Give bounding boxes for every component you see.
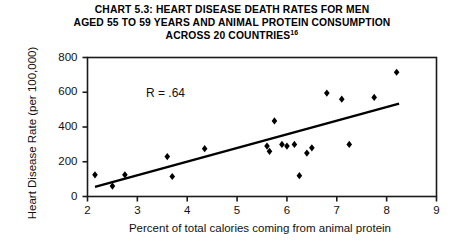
chart-figure: CHART 5.3: HEART DISEASE DEATH RATES FOR… — [0, 0, 464, 246]
x-tick-label: 6 — [277, 204, 297, 216]
y-tick-label: 400 — [44, 120, 78, 132]
x-tick-label: 2 — [78, 204, 98, 216]
x-tick-label: 7 — [327, 204, 347, 216]
x-tick-label: 9 — [427, 204, 447, 216]
y-tick-label: 800 — [44, 51, 78, 63]
y-tick-label: 200 — [44, 155, 78, 167]
x-axis-title: Percent of total calories coming from an… — [60, 222, 460, 234]
y-tick-label: 0 — [44, 190, 78, 202]
correlation-annotation: R = .64 — [146, 86, 185, 100]
x-tick-label: 3 — [127, 204, 147, 216]
y-axis-title: Heart Disease Rate (per 100,000) — [26, 38, 38, 228]
x-tick-label: 8 — [377, 204, 397, 216]
x-tick-label: 4 — [177, 204, 197, 216]
x-tick-label: 5 — [227, 204, 247, 216]
y-tick-label: 600 — [44, 85, 78, 97]
